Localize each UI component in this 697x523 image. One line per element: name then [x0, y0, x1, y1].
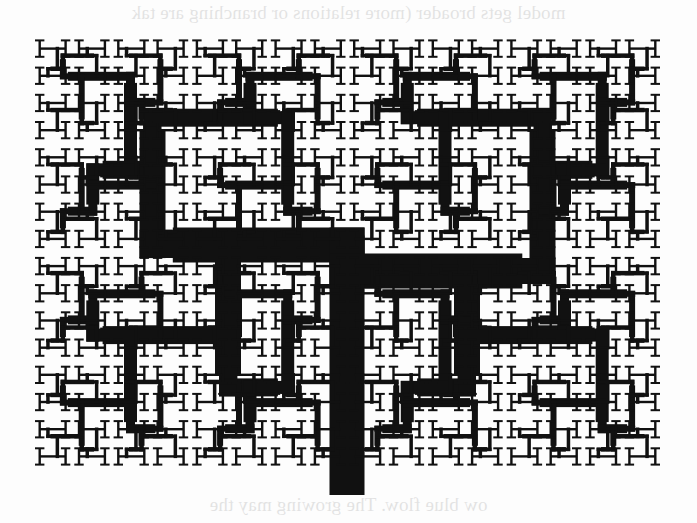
scanned-page: model gets broader (more relations or br… [0, 0, 697, 523]
tree-branches [35, 39, 660, 495]
branching-tree-figure [0, 0, 697, 523]
fractal-tree-diagram [0, 0, 697, 523]
